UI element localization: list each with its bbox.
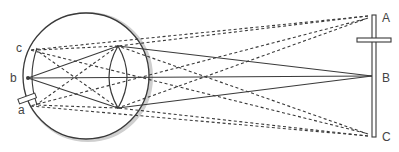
eye-optics-diagram: A B C c b a <box>0 0 399 152</box>
retina-point-b <box>26 76 30 80</box>
label-B: B <box>382 72 390 84</box>
label-b: b <box>10 72 17 84</box>
label-c: c <box>16 42 22 54</box>
label-A: A <box>382 12 390 24</box>
object-rod <box>372 15 376 137</box>
label-a: a <box>18 104 25 116</box>
eyeball-outline <box>23 13 149 139</box>
diagram-canvas <box>0 0 399 152</box>
object-crossbar <box>357 38 391 42</box>
label-C: C <box>382 131 391 143</box>
